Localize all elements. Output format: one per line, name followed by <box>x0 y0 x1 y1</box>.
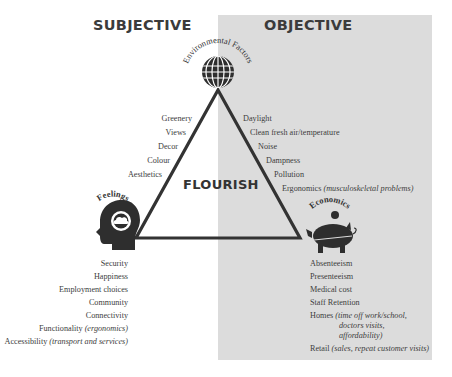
list-item: Dampness <box>266 156 300 166</box>
list-item: Absenteeism <box>310 259 352 269</box>
list-item: Presenteeism <box>310 272 353 282</box>
list-item: Happiness <box>94 272 128 282</box>
list-item-continuation: doctors visits, <box>339 321 385 331</box>
list-item: Greenery <box>162 114 192 124</box>
list-item: Security <box>101 259 128 269</box>
list-item: Employment choices <box>59 285 128 295</box>
list-item-continuation: affordability) <box>339 331 382 341</box>
flourish-label: FLOURISH <box>183 177 259 192</box>
list-item: Accessibility (transport and services) <box>5 337 128 347</box>
list-item: Homes (time off work/school, <box>310 311 407 321</box>
list-item: Community <box>89 298 128 308</box>
list-item: Clean fresh air/temperature <box>250 128 340 138</box>
list-item: Colour <box>147 156 170 166</box>
list-item: Retail (sales, repeat customer visits) <box>310 344 429 354</box>
list-item: Aesthetics <box>128 170 162 180</box>
list-item: Staff Retention <box>310 298 360 308</box>
list-item: Medical cost <box>310 285 352 295</box>
list-item: Decor <box>158 142 178 152</box>
globe-icon <box>202 56 234 88</box>
feelings-title: Feelings <box>95 189 132 204</box>
list-item: Daylight <box>243 114 272 124</box>
head-cloud-icon <box>96 200 140 250</box>
list-item: Connectivity <box>86 311 128 321</box>
list-item: Noise <box>258 142 277 152</box>
list-item: Ergonomics (musculoskeletal problems) <box>282 184 413 194</box>
list-item: Pollution <box>274 170 304 180</box>
list-item: Functionality (ergonomics) <box>39 324 128 334</box>
list-item: Views <box>166 128 186 138</box>
economics-title: Economics <box>307 194 353 211</box>
piggy-bank-icon <box>306 211 356 253</box>
